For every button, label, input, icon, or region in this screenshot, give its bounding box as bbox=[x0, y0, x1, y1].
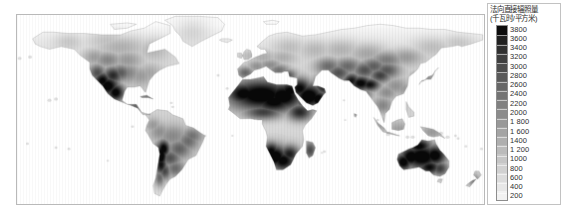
legend-tick-label: 2600 bbox=[510, 81, 527, 89]
legend-tick-label: 3200 bbox=[510, 53, 527, 61]
legend-tick-label: 2200 bbox=[510, 100, 527, 108]
legend-panel: 法向直接辐照量 (千瓦时/平方米) 3800360034003200300028… bbox=[487, 3, 561, 205]
legend-tick-label: 600 bbox=[510, 174, 523, 182]
world-map-raster bbox=[17, 15, 484, 204]
legend-tick-label: 1 200 bbox=[510, 146, 529, 154]
legend-tick-label: 1000 bbox=[510, 155, 527, 163]
legend-tick-label: 3800 bbox=[510, 26, 527, 34]
legend-tick-label: 3400 bbox=[510, 44, 527, 52]
legend-tick-label: 1 600 bbox=[510, 128, 529, 136]
legend-gradient-bar bbox=[496, 25, 508, 201]
legend-title-line-1: 法向直接辐照量 bbox=[490, 5, 560, 14]
legend-tick-label: 1400 bbox=[510, 137, 527, 145]
legend-tick-label: 2800 bbox=[510, 72, 527, 80]
legend-tick-label: 3600 bbox=[510, 35, 527, 43]
legend-color-scale: 3800360034003200300028002600240022002000… bbox=[496, 25, 560, 201]
legend-tick-label: 1 800 bbox=[510, 118, 529, 126]
legend-title-line-2: (千瓦时/平方米) bbox=[490, 14, 560, 23]
legend-tick-label: 200 bbox=[510, 192, 523, 200]
legend-tick-label: 2400 bbox=[510, 90, 527, 98]
legend-gradient-fill bbox=[497, 26, 507, 200]
legend-tick-label: 3000 bbox=[510, 63, 527, 71]
legend-tick-labels: 3800360034003200300028002600240022002000… bbox=[510, 25, 558, 201]
world-map-panel bbox=[16, 14, 485, 205]
legend-tick-label: 400 bbox=[510, 183, 523, 191]
legend-tick-label: 2000 bbox=[510, 109, 527, 117]
legend-tick-label: 800 bbox=[510, 165, 523, 173]
legend-title: 法向直接辐照量 (千瓦时/平方米) bbox=[490, 5, 560, 23]
figure-root: 法向直接辐照量 (千瓦时/平方米) 3800360034003200300028… bbox=[0, 0, 565, 220]
